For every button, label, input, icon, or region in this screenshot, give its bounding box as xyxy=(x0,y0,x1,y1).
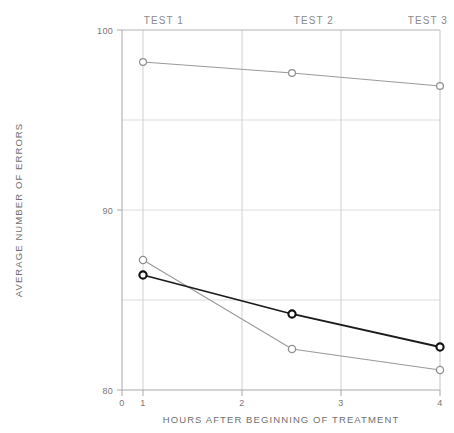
y-axis-title: AVERAGE NUMBER OF ERRORS xyxy=(13,123,24,298)
x-tick-label-0: 0 xyxy=(119,398,124,408)
data-point-lower-black-3 xyxy=(436,343,443,350)
x-tick-label-4: 4 xyxy=(437,398,442,408)
horizontal-gridlines xyxy=(122,120,440,300)
chart-figure: 100 90 80 0 1 2 3 4 TEST 1 TEST 2 TEST 3 xyxy=(0,0,454,433)
x-tick-label-1: 1 xyxy=(140,398,145,408)
y-tick-label-100: 100 xyxy=(97,26,113,36)
x-axis-title: HOURS AFTER BEGINNING OF TREATMENT xyxy=(163,414,400,425)
y-tick-marks xyxy=(117,30,122,390)
x-tick-label-3: 3 xyxy=(338,398,343,408)
annotation-test-3: TEST 3 xyxy=(408,15,448,26)
y-tick-label-80: 80 xyxy=(102,386,113,396)
data-point-lower-black-1 xyxy=(139,271,146,278)
y-tick-label-90: 90 xyxy=(102,206,113,216)
series-lower-black xyxy=(139,271,443,350)
annotation-test-2: TEST 2 xyxy=(294,15,334,26)
x-tick-label-2: 2 xyxy=(239,398,244,408)
data-point-lower-gray-1 xyxy=(139,256,146,263)
data-point-lower-black-2 xyxy=(288,310,295,317)
data-point-lower-gray-3 xyxy=(436,366,443,373)
annotation-test-1: TEST 1 xyxy=(144,15,184,26)
data-point-lower-gray-2 xyxy=(288,345,295,352)
data-point-upper-gray-3 xyxy=(437,83,444,90)
data-point-upper-gray-1 xyxy=(140,59,147,66)
x-tick-marks xyxy=(122,390,440,396)
line-chart: 100 90 80 0 1 2 3 4 TEST 1 TEST 2 TEST 3 xyxy=(0,0,454,433)
series-upper-gray xyxy=(140,59,444,90)
data-point-upper-gray-2 xyxy=(289,70,296,77)
